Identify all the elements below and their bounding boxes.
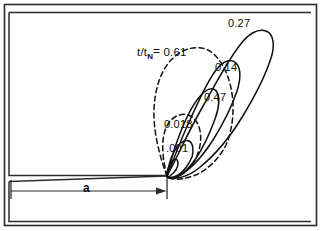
contour-label-014: 0.14	[215, 62, 237, 73]
series-key-numerator: t/t	[137, 46, 147, 58]
lower-specimen-outline	[9, 182, 311, 222]
series-key-label: t/tN= 0.61	[137, 47, 187, 61]
contour-figure-svg	[0, 0, 326, 231]
contour-label-0018: 0.018	[164, 119, 193, 130]
dimension-arrowhead-icon	[156, 187, 167, 194]
contour-label-047: 0.47	[204, 92, 226, 103]
contour-label-001: .001	[166, 143, 188, 154]
series-key-value: 0.61	[164, 46, 187, 58]
contour-label-027: 0.27	[228, 18, 250, 29]
series-key-equals: =	[153, 45, 160, 57]
figure-container: t/tN= 0.61 0.27 0.14 0.47 0.018 .001 a	[0, 0, 326, 231]
dimension-label-a: a	[83, 182, 90, 194]
upper-specimen-outline	[9, 13, 167, 176]
